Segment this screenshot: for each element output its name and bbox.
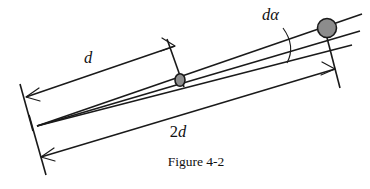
far-particle — [318, 19, 337, 38]
figure-container: d 2d dα Figure 4-2 — [0, 0, 370, 189]
middle-ray — [37, 31, 360, 126]
label-2d: 2d — [170, 122, 187, 141]
near-particle — [175, 74, 185, 86]
label-d-alpha-alpha: α — [270, 5, 279, 24]
label-d-alpha: dα — [262, 5, 279, 24]
dimension-d-line — [26, 46, 175, 97]
label-2d-number: 2 — [170, 122, 178, 141]
angle-arc-path — [283, 28, 291, 63]
label-d: d — [84, 48, 93, 67]
figure-drawing: d 2d dα Figure 4-2 — [0, 0, 370, 189]
near-particle-disc — [175, 74, 185, 86]
angle-arc — [283, 28, 291, 63]
label-2d-letter: d — [178, 122, 187, 141]
figure-caption: Figure 4-2 — [168, 154, 225, 169]
far-particle-disc — [318, 19, 337, 38]
